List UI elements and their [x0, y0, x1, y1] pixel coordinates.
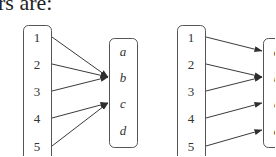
mapping-diagrams: 12345 abcd 12345 abcd	[0, 0, 275, 156]
codomain-label: b	[274, 70, 275, 85]
codomain-label: c	[120, 96, 126, 111]
domain-label: 5	[188, 139, 195, 154]
diagram-1: 12345 abcd	[24, 26, 138, 157]
domain-label: 2	[188, 57, 195, 72]
mapping-arrow	[206, 64, 262, 77]
domain-label: 3	[34, 84, 41, 99]
codomain-label: d	[120, 123, 127, 138]
mapping-arrow	[52, 103, 108, 118]
mapping-arrow	[52, 77, 108, 91]
diagram-2: 12345 abcd	[178, 26, 276, 157]
domain-label: 1	[34, 30, 41, 45]
mapping-arrow	[52, 103, 108, 146]
codomain-label: c	[274, 96, 275, 111]
domain-label: 5	[34, 139, 41, 154]
codomain-label: a	[120, 44, 127, 59]
domain-label: 4	[188, 111, 195, 126]
mapping-arrow	[206, 37, 262, 51]
domain-label: 3	[188, 84, 195, 99]
mapping-arrow	[206, 77, 262, 91]
domain-label: 1	[188, 30, 195, 45]
domain-label: 2	[34, 57, 41, 72]
mapping-arrow	[206, 103, 262, 118]
domain-label: 4	[34, 111, 41, 126]
mapping-arrow	[206, 130, 262, 146]
codomain-label: d	[274, 123, 275, 138]
codomain-label: b	[120, 70, 127, 85]
codomain-label: a	[274, 44, 275, 59]
